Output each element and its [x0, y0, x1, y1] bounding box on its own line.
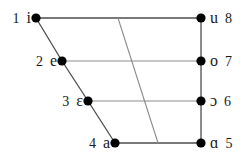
edges-group: [36, 18, 201, 143]
vowel-dot-2: [57, 56, 66, 65]
vowel-number-3: 3: [62, 94, 69, 109]
vowel-symbol-4: a: [103, 134, 110, 151]
vowel-symbol-6: ɔ: [210, 92, 217, 109]
vowel-number-7: 7: [225, 54, 232, 69]
vowel-number-5: 5: [225, 136, 232, 151]
vowel-label-6: ɔ6: [210, 93, 231, 109]
vowel-symbol-7: o: [210, 52, 218, 69]
vowel-symbol-3: ɛ: [76, 92, 83, 109]
vowel-label-4: 4a: [89, 135, 110, 151]
vowel-dots-group: [31, 13, 205, 147]
vowel-number-6: 6: [224, 94, 231, 109]
inner-lines-group: [62, 18, 201, 143]
vowel-number-8: 8: [225, 11, 232, 26]
vowel-dot-1: [31, 13, 40, 22]
vowel-number-1: 1: [13, 11, 20, 26]
vowel-number-2: 2: [36, 54, 43, 69]
vowel-label-8: u8: [210, 10, 232, 26]
vowel-dot-6: [196, 96, 205, 105]
vowel-label-5: ɑ5: [210, 135, 232, 151]
vowel-chart-figure: 1i 2e 3ɛ 4a ɑ5 ɔ6 o7 u8: [0, 0, 247, 162]
vowel-symbol-8: u: [210, 9, 218, 26]
vowel-symbol-5: ɑ: [210, 134, 218, 151]
vowel-dot-5: [196, 138, 205, 147]
vowel-dot-7: [196, 56, 205, 65]
vowel-label-2: 2e: [36, 53, 57, 69]
vowel-dot-3: [83, 96, 92, 105]
vowel-dot-8: [196, 13, 205, 22]
vowel-symbol-1: i: [27, 9, 31, 26]
vowel-dot-4: [110, 138, 119, 147]
vowel-number-4: 4: [89, 136, 96, 151]
vowel-label-7: o7: [210, 53, 232, 69]
vowel-symbol-2: e: [50, 52, 57, 69]
vowel-label-3: 3ɛ: [62, 93, 83, 109]
central-diagonal: [118, 18, 158, 143]
vowel-label-1: 1i: [13, 10, 31, 26]
